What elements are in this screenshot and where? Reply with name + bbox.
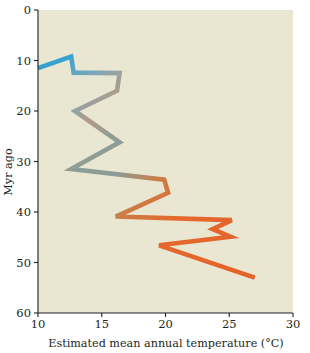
y-axis-ticks: 0102030405060 — [16, 3, 38, 320]
y-tick-label: 30 — [16, 155, 31, 169]
x-tick-label: 10 — [31, 317, 46, 331]
x-tick-label: 30 — [286, 317, 301, 331]
y-tick-label: 40 — [16, 205, 31, 219]
plot-area-background — [38, 10, 293, 313]
y-axis-title: Myr ago — [2, 148, 15, 196]
y-tick-label: 60 — [16, 306, 31, 320]
x-axis-ticks: 1015202530 — [31, 313, 301, 331]
x-tick-label: 20 — [158, 317, 173, 331]
y-tick-label: 10 — [16, 54, 31, 68]
y-tick-label: 0 — [24, 3, 31, 17]
temperature-vs-age-line-chart: 1015202530 0102030405060 Estimated mean … — [0, 0, 310, 353]
y-tick-label: 50 — [16, 256, 31, 270]
x-tick-label: 15 — [94, 317, 109, 331]
x-axis-title: Estimated mean annual temperature (°C) — [48, 337, 283, 350]
figure-container: 1015202530 0102030405060 Estimated mean … — [0, 0, 310, 353]
x-tick-label: 25 — [222, 317, 237, 331]
y-tick-label: 20 — [16, 104, 31, 118]
